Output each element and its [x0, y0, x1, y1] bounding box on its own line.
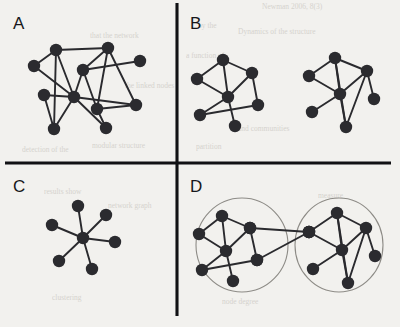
graph-node — [222, 91, 234, 103]
bleed-through-text: modular structure — [92, 141, 146, 150]
graph-node — [227, 275, 239, 287]
graph-node — [100, 209, 112, 221]
bleed-through-text: Newman 2006, 8(3) — [262, 2, 323, 11]
graph-node — [229, 120, 241, 132]
bleed-through-text: results show — [44, 187, 82, 196]
bleed-through-text: node degree — [222, 297, 259, 306]
network-community-figure: Newman 2006, 8(3)Dynamics of the structu… — [0, 0, 400, 327]
graph-node — [369, 250, 381, 262]
graph-node — [252, 99, 264, 111]
graph-node — [220, 245, 232, 257]
panel-label-d: D — [190, 177, 202, 196]
graph-node — [130, 99, 142, 111]
graph-node — [191, 73, 203, 85]
graph-node — [28, 60, 40, 72]
graph-node — [193, 228, 205, 240]
graph-node — [134, 55, 146, 67]
graph-node — [246, 67, 258, 79]
graph-node — [77, 232, 89, 244]
graph-node — [194, 109, 206, 121]
graph-node — [53, 255, 65, 267]
panel-label-a: A — [13, 14, 25, 33]
graph-node — [50, 44, 62, 56]
graph-node — [102, 42, 114, 54]
graph-node — [306, 106, 318, 118]
graph-node — [360, 222, 372, 234]
graph-node — [244, 222, 256, 234]
graph-node — [86, 263, 98, 275]
panel-label-b: B — [190, 14, 201, 33]
graph-node — [72, 200, 84, 212]
bleed-through-text: clustering — [52, 293, 82, 302]
graph-node — [340, 121, 352, 133]
graph-node — [48, 123, 60, 135]
graph-node — [361, 65, 373, 77]
graph-node — [216, 210, 228, 222]
graph-node — [303, 226, 315, 238]
graph-node — [331, 207, 343, 219]
graph-node — [307, 263, 319, 275]
panel-label-c: C — [13, 177, 25, 196]
graph-node — [217, 54, 229, 66]
bleed-through-text: and communities — [238, 124, 290, 133]
graph-node — [109, 236, 121, 248]
graph-node — [342, 277, 354, 289]
graph-node — [46, 219, 58, 231]
graph-node — [368, 93, 380, 105]
graph-node — [336, 244, 348, 256]
bleed-through-text: partition — [196, 142, 222, 151]
graph-node — [68, 91, 80, 103]
bleed-through-text: network graph — [108, 201, 152, 210]
graph-node — [329, 52, 341, 64]
graph-node — [77, 64, 89, 76]
graph-node — [38, 89, 50, 101]
bleed-through-text: that the network — [90, 31, 139, 40]
graph-node — [251, 254, 263, 266]
graph-node — [196, 264, 208, 276]
graph-node — [100, 122, 112, 134]
bleed-through-text: the linked nodes — [125, 81, 174, 90]
graph-node — [334, 88, 346, 100]
bleed-through-text: detection of the — [22, 145, 69, 154]
bleed-through-text: Dynamics of the structure — [238, 27, 316, 36]
graph-node — [91, 103, 103, 115]
graph-node — [303, 70, 315, 82]
